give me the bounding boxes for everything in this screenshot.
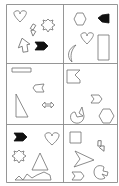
crescent-moon-icon xyxy=(69,45,76,62)
right-triangle-icon xyxy=(16,94,28,117)
cell-r2-c1[interactable] xyxy=(70,132,108,180)
chevron-flag-icon xyxy=(91,95,102,103)
chevron-flag-icon xyxy=(72,172,84,180)
pac-man-icon xyxy=(71,107,84,123)
shape-puzzle-grid xyxy=(0,0,119,186)
grid-lines xyxy=(7,5,118,183)
triangle-icon xyxy=(32,153,48,170)
filled-chevron-flag-icon xyxy=(98,14,109,23)
heart-icon xyxy=(81,33,93,44)
lightning-bolt-icon xyxy=(96,139,106,152)
chevron-flag-icon xyxy=(33,84,44,92)
heart-icon xyxy=(14,11,26,22)
hexagon-icon xyxy=(99,109,114,123)
filled-chevron-flag-icon xyxy=(35,42,48,50)
heart-icon xyxy=(45,133,59,145)
notched-square-icon xyxy=(67,70,80,83)
cell-r1-c1[interactable] xyxy=(67,70,114,123)
lightning-bolt-icon xyxy=(29,24,37,37)
wide-rectangle-icon xyxy=(12,68,31,72)
pac-man-icon xyxy=(94,166,108,180)
zigzag-mountains-icon xyxy=(15,172,51,180)
hexagon-icon xyxy=(74,13,86,25)
cell-r0-c1[interactable] xyxy=(69,13,109,62)
starburst-icon xyxy=(12,150,26,163)
cell-r1-c0[interactable] xyxy=(12,68,54,117)
filled-chevron-flag-icon xyxy=(14,133,27,141)
cell-r0-c0[interactable] xyxy=(14,11,55,53)
double-arrow-icon xyxy=(42,102,54,108)
starburst-icon xyxy=(41,19,55,32)
arrow-up-icon xyxy=(17,37,31,53)
square-icon xyxy=(70,132,81,143)
tall-rectangle-icon xyxy=(98,35,109,60)
arrowhead-icon xyxy=(74,151,94,167)
cell-r2-c0[interactable] xyxy=(12,133,59,180)
